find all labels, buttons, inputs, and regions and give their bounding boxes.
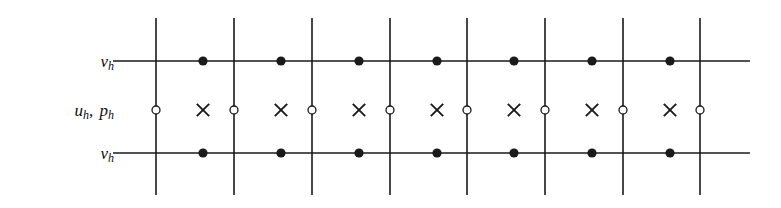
filled-circle-marker-1-5 xyxy=(587,148,596,157)
filled-circle-marker-0-3 xyxy=(432,56,441,65)
staggered-grid-figure: vh uh, ph vh xyxy=(0,0,781,208)
filled-circle-marker-1-0 xyxy=(198,148,207,157)
grid-canvas xyxy=(0,0,781,208)
times-cross-marker-3-5 xyxy=(586,104,598,116)
filled-circle-marker-1-4 xyxy=(509,148,518,157)
times-cross-marker-3-6 xyxy=(664,104,676,116)
filled-circle-marker-0-1 xyxy=(276,56,285,65)
open-circle-marker-2-2 xyxy=(308,106,316,114)
open-circle-marker-2-6 xyxy=(619,106,627,114)
filled-circle-marker-0-4 xyxy=(509,56,518,65)
filled-circle-marker-0-5 xyxy=(587,56,596,65)
times-cross-marker-3-0 xyxy=(197,104,209,116)
filled-circle-marker-1-1 xyxy=(276,148,285,157)
times-cross-marker-3-1 xyxy=(275,104,287,116)
filled-circle-marker-0-0 xyxy=(198,56,207,65)
vertical-gridlines-group xyxy=(156,18,700,195)
filled-circle-marker-0-6 xyxy=(665,56,674,65)
horizontal-gridlines-group xyxy=(113,61,750,153)
filled-circle-marker-1-3 xyxy=(432,148,441,157)
open-circle-marker-2-1 xyxy=(230,106,238,114)
filled-circle-marker-0-2 xyxy=(354,56,363,65)
open-circle-marker-2-4 xyxy=(463,106,471,114)
open-circle-marker-2-3 xyxy=(386,106,394,114)
filled-circle-marker-1-2 xyxy=(354,148,363,157)
open-circle-marker-2-0 xyxy=(152,106,160,114)
filled-circle-marker-1-6 xyxy=(665,148,674,157)
open-circle-marker-2-7 xyxy=(696,106,704,114)
open-circle-marker-2-5 xyxy=(541,106,549,114)
times-cross-marker-3-3 xyxy=(431,104,443,116)
times-cross-marker-3-2 xyxy=(353,104,365,116)
times-cross-marker-3-4 xyxy=(508,104,520,116)
